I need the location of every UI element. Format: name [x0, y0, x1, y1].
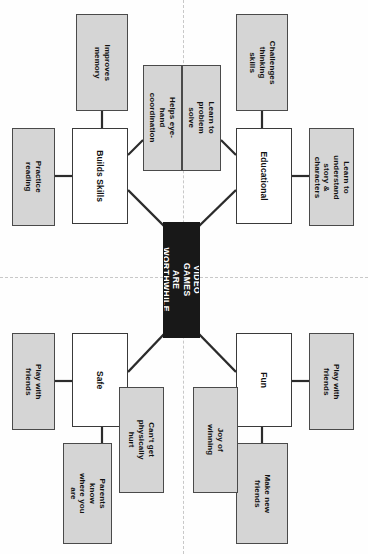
central-node[interactable]: VIDEO GAMES ARE WORTHWHILE — [163, 222, 200, 338]
leaf-node-label: Play with friends — [322, 360, 342, 403]
leaf-node-improves-memory[interactable]: Improves memory — [76, 14, 128, 111]
edge-central-to-safe — [128, 332, 166, 372]
leaf-node-label: Parents know where you are — [68, 470, 107, 517]
leaf-node-label: Improves memory — [92, 38, 112, 88]
leaf-node-label: Learn to understand story & characters — [312, 155, 351, 200]
branch-node-label: Safe — [95, 371, 105, 389]
branch-node-label: Fun — [259, 372, 269, 388]
branch-node-label: Builds Skills — [95, 150, 105, 202]
leaf-node-cant-get-physically-hurt[interactable]: Can't get physically hurt — [119, 387, 164, 493]
leaf-node-parents-know-where-you-are[interactable]: Parents know where you are — [63, 443, 112, 544]
leaf-node-learn-to-problem-solve[interactable]: Learn to problem solve — [182, 65, 221, 171]
edge-central-to-builds-skills — [128, 190, 166, 228]
leaf-node-learn-to-understand-story-characters[interactable]: Learn to understand story & characters — [309, 128, 354, 226]
leaf-node-practice-reading[interactable]: Practice reading — [12, 128, 55, 226]
leaf-node-helps-eye-hand-coordination[interactable]: Helps eye-hand coordination — [143, 65, 182, 171]
leaf-node-label: Joy of winning — [206, 419, 226, 462]
leaf-node-play-with-friends-safe[interactable]: Play with friends — [12, 333, 55, 430]
leaf-node-label: Learn to problem solve — [187, 100, 216, 137]
leaf-node-label: Play with friends — [24, 361, 44, 402]
branch-node-fun[interactable]: Fun — [236, 333, 292, 427]
leaf-node-make-new-friends[interactable]: Make new friends — [236, 443, 288, 544]
leaf-node-challenges-thinking-skills[interactable]: Challenges thinking skills — [236, 14, 288, 111]
leaf-node-joy-of-winning[interactable]: Joy of winning — [193, 387, 238, 493]
branch-node-builds-skills[interactable]: Builds Skills — [72, 128, 128, 224]
edge-central-to-educational — [197, 190, 236, 228]
leaf-node-label: Challenges thinking skills — [247, 38, 276, 88]
leaf-node-label: Practice reading — [24, 157, 44, 198]
branch-node-educational[interactable]: Educational — [236, 128, 292, 224]
leaf-node-label: Make new friends — [252, 469, 272, 519]
leaf-node-label: Can't get physically hurt — [127, 419, 156, 462]
central-node-label: VIDEO GAMES ARE WORTHWHILE — [163, 248, 200, 312]
leaf-node-label: Helps eye-hand coordination — [148, 93, 177, 143]
branch-node-label: Educational — [259, 151, 269, 200]
edge-builds-skills-to-helps-eye-hand — [128, 140, 143, 155]
edge-central-to-fun — [197, 332, 236, 372]
leaf-node-play-with-friends-fun[interactable]: Play with friends — [309, 333, 354, 430]
edge-educational-to-learn-to-problem-solve — [221, 140, 236, 155]
mind-map-canvas: VIDEO GAMES ARE WORTHWHILE Builds Skills… — [0, 0, 368, 554]
